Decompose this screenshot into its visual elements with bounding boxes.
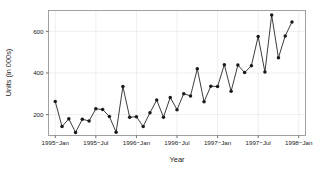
- y-tick-label: 400: [33, 69, 44, 76]
- data-point: [162, 115, 166, 119]
- data-point: [87, 119, 91, 123]
- data-point: [175, 108, 179, 112]
- data-point: [283, 34, 287, 38]
- data-point: [121, 85, 125, 89]
- data-point: [270, 13, 274, 17]
- data-point: [182, 92, 186, 96]
- data-point: [277, 56, 281, 60]
- data-point: [256, 35, 260, 39]
- data-point: [189, 94, 193, 98]
- data-point: [243, 71, 247, 75]
- x-tick-label: 1998−Jan: [285, 139, 313, 146]
- data-point: [196, 67, 200, 71]
- data-point: [263, 70, 267, 74]
- y-tick-label: 200: [33, 111, 44, 118]
- data-point: [290, 20, 294, 24]
- data-point: [60, 125, 64, 129]
- data-point: [155, 98, 159, 102]
- x-tick-label: 1995−Jan: [42, 139, 70, 146]
- data-point: [168, 96, 172, 100]
- data-point: [108, 115, 112, 119]
- data-point: [101, 108, 105, 112]
- data-point: [114, 130, 118, 134]
- x-tick-label: 1995−Jul: [83, 139, 108, 146]
- x-tick-label: 1996−Jan: [123, 139, 151, 146]
- data-point: [135, 115, 139, 119]
- chart-figure: 200400600 1995−Jan1995−Jul1996−Jan1996−J…: [0, 0, 319, 169]
- data-point: [216, 85, 220, 89]
- data-point: [81, 118, 85, 122]
- y-axis-title: Units (in 000s): [4, 49, 13, 97]
- data-point: [54, 100, 58, 104]
- data-point: [128, 115, 132, 119]
- data-point: [229, 90, 233, 94]
- x-tick-label: 1996−Jul: [164, 139, 189, 146]
- data-point: [250, 64, 254, 68]
- y-tick-label: 600: [33, 28, 44, 35]
- data-point: [74, 131, 78, 135]
- data-point: [67, 117, 71, 121]
- data-point: [202, 100, 206, 104]
- data-point: [141, 125, 145, 129]
- x-tick-label: 1997−Jan: [204, 139, 232, 146]
- x-tick-label: 1997−Jul: [246, 139, 271, 146]
- data-point: [148, 111, 152, 115]
- data-point: [223, 63, 227, 67]
- data-point: [209, 84, 213, 88]
- line-chart-svg: 200400600 1995−Jan1995−Jul1996−Jan1996−J…: [0, 0, 319, 169]
- data-point: [94, 107, 98, 111]
- data-point: [236, 63, 240, 67]
- x-axis-title: Year: [170, 155, 185, 164]
